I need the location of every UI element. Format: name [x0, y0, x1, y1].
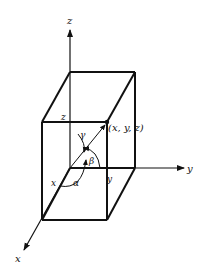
y-axis-label: y: [186, 163, 193, 174]
edge-z-label: z: [60, 112, 66, 122]
beta-label: β: [88, 156, 94, 166]
point-label: (x, y, z): [108, 122, 144, 133]
z-axis-label: z: [66, 15, 73, 26]
edge-x-label: x: [51, 178, 56, 188]
gamma-label: γ: [80, 130, 86, 140]
edge-y-label: y: [106, 174, 113, 184]
coordinate-box-diagram: z y x (x, y, z) z y x γ β α: [0, 0, 201, 272]
x-axis-label: x: [15, 253, 21, 264]
alpha-label: α: [73, 178, 79, 188]
position-vector: [70, 125, 105, 168]
